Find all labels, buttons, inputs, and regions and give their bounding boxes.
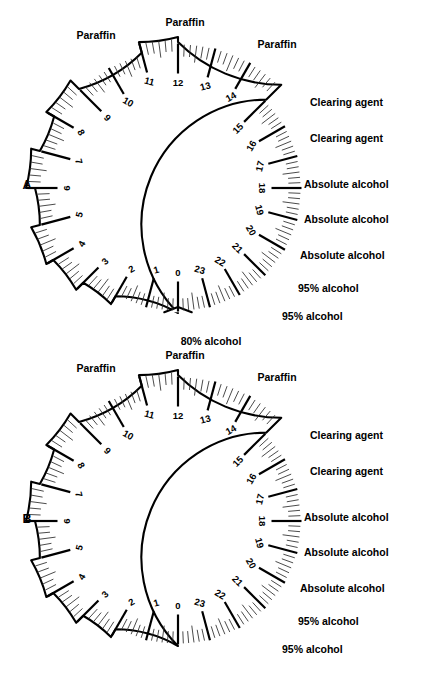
minor-tick bbox=[201, 47, 203, 59]
minor-tick bbox=[276, 572, 287, 578]
minor-tick bbox=[38, 194, 50, 195]
minor-tick bbox=[239, 394, 245, 405]
minor-tick bbox=[218, 384, 222, 395]
minor-tick bbox=[263, 109, 272, 117]
minor-tick bbox=[183, 631, 184, 643]
minor-tick bbox=[287, 167, 299, 169]
hour-label-1: 1 bbox=[152, 596, 161, 608]
minor-tick bbox=[237, 281, 243, 291]
minor-tick bbox=[242, 272, 252, 285]
minor-tick bbox=[282, 146, 293, 150]
hour-label-6: 6 bbox=[61, 185, 72, 190]
minor-tick bbox=[241, 279, 248, 289]
minor-tick bbox=[218, 51, 222, 62]
minor-tick bbox=[262, 446, 275, 456]
minor-tick bbox=[283, 221, 294, 225]
station-label-B-3: Absolute alcohol bbox=[304, 546, 389, 558]
minor-tick bbox=[286, 545, 298, 548]
minor-tick bbox=[278, 136, 289, 141]
hour-label-19: 19 bbox=[253, 203, 266, 216]
station-label-B-0: Clearing agent bbox=[310, 429, 383, 441]
minor-tick bbox=[192, 626, 194, 643]
minor-tick bbox=[271, 455, 281, 461]
minor-tick bbox=[276, 464, 287, 470]
paraffin-label-B-0: Paraffin bbox=[76, 362, 115, 374]
minor-tick bbox=[229, 619, 235, 630]
minor-tick bbox=[249, 606, 257, 615]
paraffin-label-B-1: Paraffin bbox=[165, 349, 204, 361]
minor-tick bbox=[188, 298, 189, 310]
minor-tick bbox=[201, 380, 203, 392]
minor-tick bbox=[282, 479, 293, 483]
hour-label-12: 12 bbox=[173, 410, 184, 421]
minor-tick bbox=[275, 228, 291, 235]
minor-tick bbox=[288, 193, 300, 194]
minor-tick bbox=[263, 442, 272, 450]
minor-tick bbox=[226, 55, 233, 71]
hour-label-22: 22 bbox=[213, 587, 228, 602]
minor-tick bbox=[263, 592, 272, 600]
hour-label-16: 16 bbox=[244, 138, 259, 153]
minor-tick bbox=[269, 451, 279, 458]
minor-tick bbox=[225, 288, 230, 299]
hour-label-0: 0 bbox=[175, 267, 180, 278]
minor-tick bbox=[276, 131, 287, 137]
station-label-B-4: Absolute alcohol bbox=[300, 582, 385, 594]
station-label-B-6: 95% alcohol bbox=[282, 643, 343, 655]
paraffin-label-B-2: Paraffin bbox=[257, 371, 296, 383]
minor-tick bbox=[206, 381, 209, 393]
minor-tick bbox=[202, 629, 205, 641]
hour-label-18: 18 bbox=[257, 516, 268, 527]
minor-tick bbox=[283, 554, 294, 558]
hour-label-23: 23 bbox=[193, 263, 206, 276]
minor-tick bbox=[173, 298, 174, 310]
minor-tick bbox=[262, 585, 275, 595]
minor-tick bbox=[173, 631, 174, 643]
hour-label-1: 1 bbox=[152, 263, 161, 275]
minor-tick bbox=[288, 531, 300, 532]
minor-tick bbox=[288, 526, 300, 527]
minor-tick bbox=[288, 198, 300, 199]
minor-tick bbox=[269, 584, 279, 591]
hour-label-0: 0 bbox=[175, 600, 180, 611]
station-label-B-2: Absolute alcohol bbox=[304, 511, 389, 523]
minor-tick bbox=[287, 500, 299, 502]
dial-panel-b: 01234567891011121314151617181920212223Cl… bbox=[0, 340, 430, 681]
minor-tick bbox=[283, 484, 294, 488]
hour-label-23: 23 bbox=[193, 596, 206, 609]
minor-tick bbox=[262, 113, 275, 123]
paraffin-label-A-1: Paraffin bbox=[165, 16, 204, 28]
minor-tick bbox=[211, 626, 215, 637]
hour-label-17: 17 bbox=[253, 493, 266, 506]
minor-tick bbox=[278, 568, 289, 573]
hour-label-21: 21 bbox=[230, 240, 246, 256]
minor-tick bbox=[278, 235, 289, 240]
hour-label-22: 22 bbox=[213, 254, 228, 269]
minor-tick bbox=[286, 212, 298, 215]
minor-tick bbox=[286, 494, 298, 497]
minor-tick bbox=[237, 614, 243, 624]
hour-label-15: 15 bbox=[230, 120, 246, 136]
minor-tick bbox=[275, 561, 291, 568]
minor-tick bbox=[211, 293, 215, 304]
minor-tick bbox=[271, 247, 281, 253]
station-label-B-5: 95% alcohol bbox=[298, 615, 359, 627]
minor-tick bbox=[253, 70, 260, 80]
figure-canvas: 01234567891011121314151617181920212223Cl… bbox=[0, 0, 430, 681]
paraffin-label-A-0: Paraffin bbox=[76, 29, 115, 41]
minor-tick bbox=[183, 298, 184, 310]
hour-label-20: 20 bbox=[244, 556, 259, 571]
hour-label-20: 20 bbox=[244, 223, 259, 238]
minor-tick bbox=[288, 177, 300, 178]
minor-tick bbox=[276, 239, 287, 245]
minor-tick bbox=[287, 207, 299, 209]
minor-tick bbox=[288, 183, 300, 184]
minor-tick bbox=[172, 373, 173, 385]
station-label-A-3: Absolute alcohol bbox=[304, 213, 389, 225]
panel-letter-A: A bbox=[22, 178, 31, 192]
dial-svg-A: 01234567891011121314151617181920212223Cl… bbox=[0, 0, 430, 350]
panel-letter-B: B bbox=[22, 512, 31, 526]
minor-tick bbox=[202, 296, 205, 308]
minor-tick bbox=[283, 172, 300, 174]
minor-tick bbox=[286, 161, 298, 164]
